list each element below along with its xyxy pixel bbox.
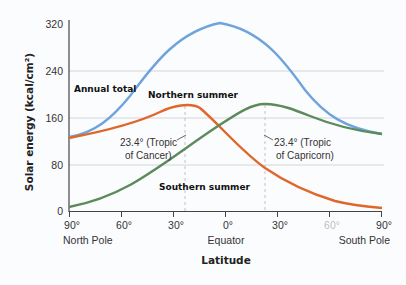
tropic-of-capricorn-label-line1: 23.4° (Tropic [274, 137, 331, 148]
x-tick-90n: 90° [64, 219, 80, 231]
southern-summer-label: Southern summer [159, 182, 250, 192]
annual-total-label: Annual total [74, 84, 136, 94]
x-axis-title: Latitude [201, 254, 251, 266]
y-axis-title: Solar energy (kcal/cm²) [23, 53, 35, 191]
y-tick-0: 0 [57, 205, 63, 217]
equator-label: Equator [208, 234, 245, 246]
tropic-of-cancer-label-line2: of Cancer) [125, 150, 172, 161]
y-tick-160: 160 [45, 112, 63, 124]
y-tick-80: 80 [51, 159, 63, 171]
x-tick-60s: 60° [324, 219, 340, 231]
tropic-of-cancer-label-line1: 23.4° (Tropic [120, 137, 177, 148]
x-tick-30s: 30° [272, 219, 288, 231]
x-tick-0: 0° [223, 219, 233, 231]
x-tick-60n: 60° [116, 219, 132, 231]
x-tick-90s: 90° [376, 219, 392, 231]
y-tick-240: 240 [45, 65, 63, 77]
x-tick-labels: 90° 60° 30° 0° 30° 60° 90° North Pole Eq… [63, 219, 392, 246]
y-tick-labels: 320 240 160 80 0 [45, 18, 63, 217]
tropic-of-capricorn-label-line2: of Capricorn) [276, 150, 334, 161]
south-pole-label: South Pole [339, 234, 391, 246]
x-tick-30n: 30° [168, 219, 184, 231]
northern-summer-label: Northern summer [148, 90, 239, 100]
north-pole-label: North Pole [63, 234, 113, 246]
solar-energy-chart: 320 240 160 80 0 90° 60° 30° 0° 30° 60° … [0, 0, 406, 285]
y-tick-320: 320 [45, 18, 63, 30]
